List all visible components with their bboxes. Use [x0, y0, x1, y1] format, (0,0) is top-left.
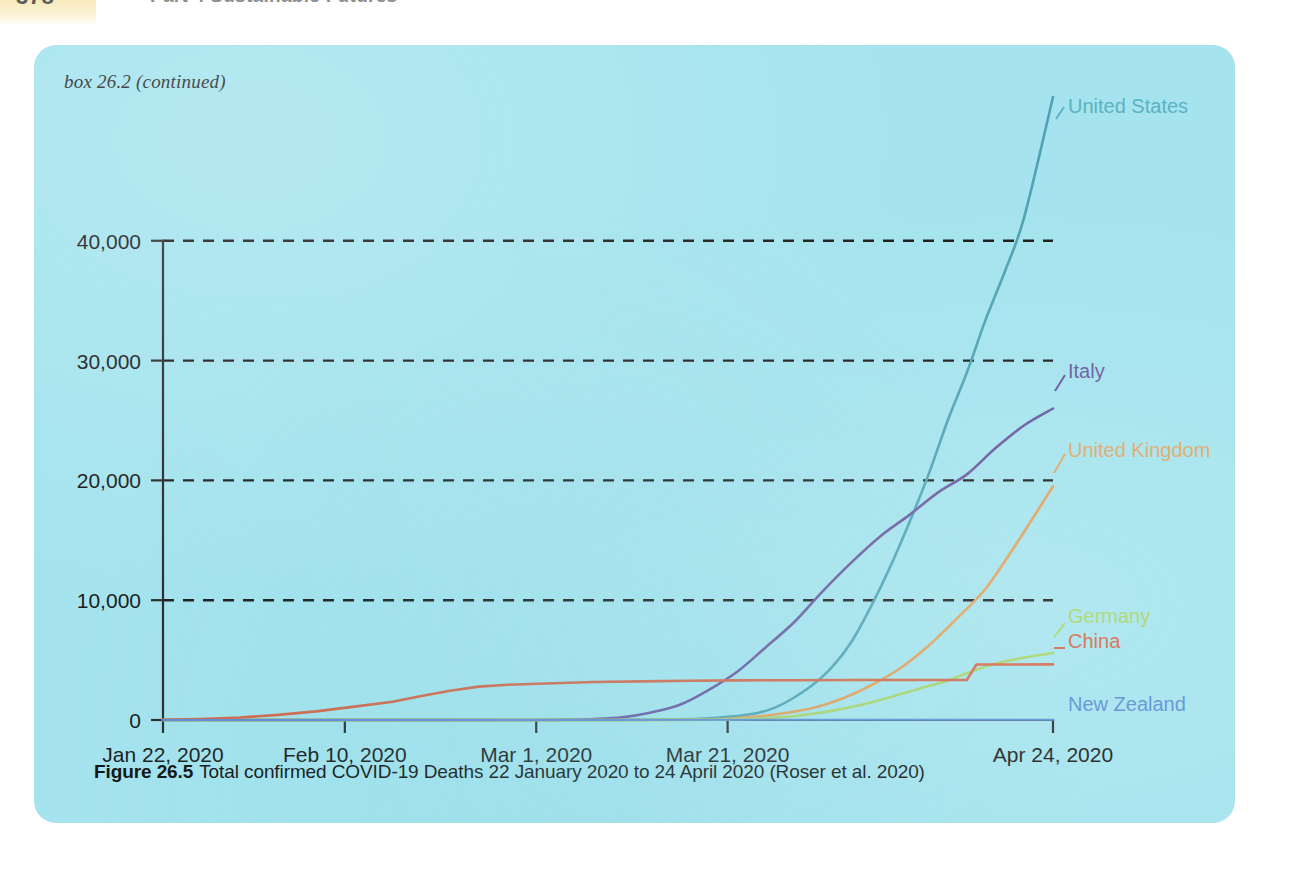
figure-chart: 010,00020,00030,00040,000 Jan 22, 2020Fe… — [34, 45, 1235, 823]
series-line — [163, 97, 1053, 720]
series-label: New Zealand — [1068, 693, 1186, 715]
y-tick-label: 20,000 — [77, 469, 141, 492]
series-leader-lines-group — [1054, 107, 1065, 648]
series-leader-line — [1054, 623, 1065, 637]
series-leader-line — [1054, 454, 1065, 473]
y-tick-label: 0 — [129, 709, 141, 732]
series-line — [163, 409, 1053, 721]
series-label: Italy — [1068, 360, 1105, 382]
gridlines-group — [163, 241, 1053, 600]
figure-number: Figure 26.5 — [94, 761, 193, 782]
running-head: Part 4 Sustainable Futures — [150, 0, 397, 7]
series-label: United States — [1068, 95, 1188, 117]
series-line — [163, 653, 1053, 720]
x-ticks-group: Jan 22, 2020Feb 10, 2020Mar 1, 2020Mar 2… — [102, 720, 1113, 766]
y-tick-label: 40,000 — [77, 230, 141, 253]
y-tick-label: 10,000 — [77, 589, 141, 612]
series-lines-group — [163, 97, 1053, 720]
page-number: 378 — [16, 0, 54, 10]
figure-caption-text: Total confirmed COVID-19 Deaths 22 Janua… — [199, 761, 925, 782]
series-labels-group: United StatesItalyUnited KingdomGermanyC… — [1068, 95, 1210, 715]
series-label: United Kingdom — [1068, 439, 1210, 461]
series-leader-line — [1056, 107, 1064, 119]
figure-caption: Figure 26.5Total confirmed COVID-19 Deat… — [94, 761, 1204, 783]
y-tick-label: 30,000 — [77, 350, 141, 373]
box-panel: box 26.2 (continued) 010,00020,00030,000… — [34, 45, 1235, 823]
page-header: 378 Part 4 Sustainable Futures — [0, 0, 1289, 26]
series-label: Germany — [1068, 605, 1150, 627]
y-ticks-group: 010,00020,00030,00040,000 — [77, 230, 163, 732]
series-line — [163, 664, 1053, 719]
series-line — [163, 486, 1053, 720]
chart-svg: 010,00020,00030,00040,000 Jan 22, 2020Fe… — [34, 45, 1235, 823]
series-leader-line — [1055, 375, 1065, 391]
series-label: China — [1068, 630, 1121, 652]
